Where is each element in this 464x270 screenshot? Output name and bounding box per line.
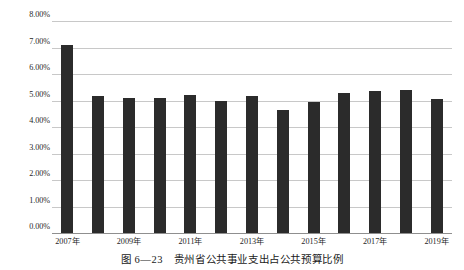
- bar: [308, 102, 320, 233]
- bar-slot: [329, 21, 360, 233]
- bar: [184, 95, 196, 233]
- bar: [400, 90, 412, 233]
- y-axis-tick-label: 8.00%: [29, 10, 50, 19]
- bar-slot: [390, 21, 421, 233]
- y-axis-tick-label: 4.00%: [29, 116, 50, 125]
- y-axis-tick-label: 6.00%: [29, 63, 50, 72]
- x-axis: 2007年2009年2011年2013年2015年2017年2019年: [52, 234, 452, 248]
- bar: [154, 98, 166, 233]
- bar: [338, 93, 350, 233]
- bar-slot: [144, 21, 175, 233]
- bar-slot: [175, 21, 206, 233]
- y-axis-tick-label: 2.00%: [29, 169, 50, 178]
- y-axis-tick-label: 0.00%: [29, 222, 50, 231]
- x-axis-tick-label: 2007年: [55, 234, 79, 246]
- bar: [431, 99, 443, 233]
- bar-slot: [267, 21, 298, 233]
- bar: [215, 101, 227, 233]
- bar: [123, 98, 135, 233]
- bar-slot: [206, 21, 237, 233]
- bar: [61, 45, 73, 233]
- x-axis-tick-label: 2013年: [240, 234, 264, 246]
- bar-slot: [83, 21, 114, 233]
- figure-container: 0.00%1.00%2.00%3.00%4.00%5.00%6.00%7.00%…: [0, 0, 464, 270]
- figure-caption: 图 6—23 贵州省公共事业支出占公共预算比例: [0, 251, 464, 266]
- bar-slot: [421, 21, 452, 233]
- x-axis-tick-label: 2011年: [178, 234, 202, 246]
- y-axis: 0.00%1.00%2.00%3.00%4.00%5.00%6.00%7.00%…: [8, 14, 50, 240]
- x-axis-tick-label: 2019年: [424, 234, 448, 246]
- bar-slot: [114, 21, 145, 233]
- bar-slot: [52, 21, 83, 233]
- bar: [277, 110, 289, 233]
- y-axis-tick-label: 5.00%: [29, 89, 50, 98]
- bar: [369, 91, 381, 233]
- y-axis-tick-label: 3.00%: [29, 142, 50, 151]
- x-axis-tick-label: 2009年: [117, 234, 141, 246]
- chart-plot-wrapper: 0.00%1.00%2.00%3.00%4.00%5.00%6.00%7.00%…: [0, 0, 464, 248]
- bar-slot: [298, 21, 329, 233]
- bar: [246, 96, 258, 233]
- y-axis-tick-label: 1.00%: [29, 195, 50, 204]
- bar-slot: [237, 21, 268, 233]
- bar-slot: [360, 21, 391, 233]
- y-axis-tick-label: 7.00%: [29, 36, 50, 45]
- plot-area: [52, 21, 452, 233]
- bar-series: [52, 21, 452, 233]
- x-axis-tick-label: 2015年: [301, 234, 325, 246]
- x-axis-tick-label: 2017年: [363, 234, 387, 246]
- bar: [92, 96, 104, 233]
